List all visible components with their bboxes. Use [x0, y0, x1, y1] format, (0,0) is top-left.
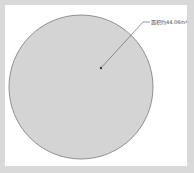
circle-shape: [9, 15, 153, 159]
circle-diagram: 面积约44.06m²: [0, 0, 194, 173]
area-label: 面积约44.06m²: [151, 19, 187, 26]
